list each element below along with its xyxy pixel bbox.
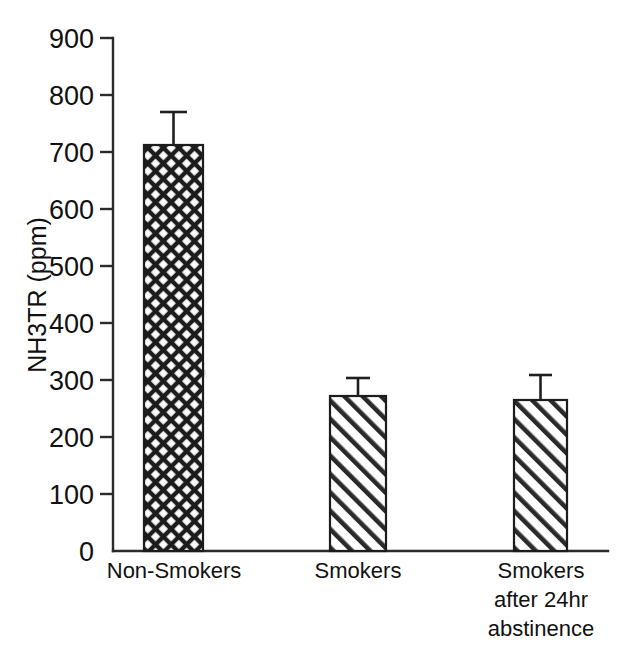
bar-rect-smokers[interactable] bbox=[330, 396, 386, 551]
bar-rect-smokers-after-24hr[interactable] bbox=[514, 400, 567, 551]
y-tick-label-700: 700 bbox=[49, 138, 94, 168]
y-axis-title: NH3TR (ppm) bbox=[23, 217, 51, 373]
bar-rect-non-smokers[interactable] bbox=[144, 145, 203, 551]
category-label-smokers: Smokers bbox=[315, 558, 402, 583]
plot-background bbox=[0, 0, 631, 652]
y-tick-label-500: 500 bbox=[49, 252, 94, 282]
category-label-line-1: Smokers bbox=[498, 558, 585, 583]
y-tick-label-800: 800 bbox=[49, 81, 94, 111]
bar-chart-canvas: 00005 900 800 700 600 500 400 bbox=[0, 0, 631, 652]
bar-non-smokers[interactable] bbox=[144, 112, 203, 551]
y-tick-label-200: 200 bbox=[49, 423, 94, 453]
category-label-line-3: abstinence bbox=[488, 616, 594, 641]
y-tick-label-400: 400 bbox=[49, 309, 94, 339]
y-tick-label-0: 0 bbox=[79, 537, 94, 567]
y-tick-label-900: 900 bbox=[49, 24, 94, 54]
y-tick-label-300: 300 bbox=[49, 366, 94, 396]
y-tick-label-600: 600 bbox=[49, 195, 94, 225]
category-label-line-2: after 24hr bbox=[494, 587, 588, 612]
bar-smokers-after-24hr[interactable] bbox=[514, 375, 567, 551]
category-label-non-smokers: Non-Smokers bbox=[107, 558, 241, 583]
chart-figure: 00005 900 800 700 600 500 400 bbox=[0, 0, 631, 652]
bar-smokers[interactable] bbox=[330, 378, 386, 551]
category-label-smokers-after-24hr: Smokers after 24hr abstinence bbox=[488, 558, 594, 641]
y-tick-label-100: 100 bbox=[49, 480, 94, 510]
